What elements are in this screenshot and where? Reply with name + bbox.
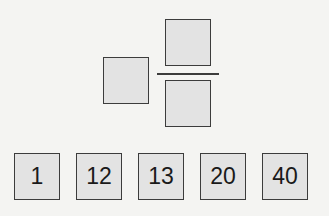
denominator-drop-box[interactable] <box>165 80 211 127</box>
number-tile-13[interactable]: 13 <box>138 153 184 200</box>
number-tile-20[interactable]: 20 <box>200 153 246 200</box>
whole-number-drop-box[interactable] <box>103 57 149 104</box>
numerator-drop-box[interactable] <box>165 19 211 66</box>
number-tile-12[interactable]: 12 <box>76 153 122 200</box>
number-tile-40[interactable]: 40 <box>262 153 308 200</box>
fraction-bar <box>157 73 219 75</box>
number-tile-1[interactable]: 1 <box>14 153 60 200</box>
